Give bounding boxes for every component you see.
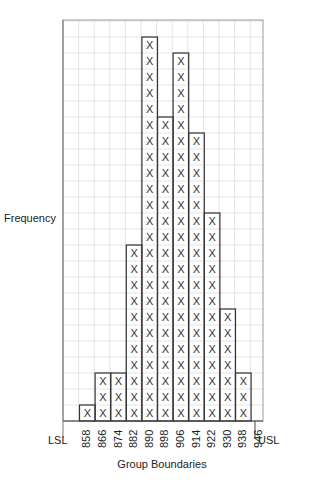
tally-mark: X <box>162 311 170 323</box>
tally-mark: X <box>177 247 185 259</box>
tally-mark: X <box>193 199 201 211</box>
tally-mark: X <box>224 343 232 355</box>
tally-mark: X <box>130 407 138 419</box>
x-tick-label: 890 <box>143 430 155 448</box>
tally-mark: X <box>177 359 185 371</box>
bar: XXX <box>95 373 111 421</box>
tally-mark: X <box>177 327 185 339</box>
tally-mark: X <box>162 247 170 259</box>
tally-mark: X <box>177 231 185 243</box>
tally-mark: X <box>162 151 170 163</box>
tally-mark: X <box>193 135 201 147</box>
tally-mark: X <box>177 279 185 291</box>
tally-mark: X <box>115 391 123 403</box>
tally-mark: X <box>99 391 107 403</box>
tally-mark: X <box>193 279 201 291</box>
tally-mark: X <box>146 231 154 243</box>
tally-mark: X <box>146 311 154 323</box>
tally-mark: X <box>208 295 216 307</box>
tally-mark: X <box>130 343 138 355</box>
tally-mark: X <box>208 359 216 371</box>
tally-mark: X <box>162 215 170 227</box>
tally-mark: X <box>162 119 170 131</box>
tally-mark: X <box>193 375 201 387</box>
tally-mark: X <box>162 231 170 243</box>
tally-mark: X <box>146 295 154 307</box>
tally-mark: X <box>162 391 170 403</box>
tally-mark: X <box>224 311 232 323</box>
x-tick-label: 938 <box>236 430 248 448</box>
usl-label: USL <box>258 434 279 446</box>
tally-mark: X <box>193 215 201 227</box>
tally-mark: X <box>177 343 185 355</box>
tally-mark: X <box>162 407 170 419</box>
tally-mark: X <box>162 327 170 339</box>
tally-mark: X <box>177 183 185 195</box>
x-tick-label: 906 <box>174 430 186 448</box>
tally-mark: X <box>177 215 185 227</box>
tally-mark: X <box>146 391 154 403</box>
tally-mark: X <box>177 391 185 403</box>
bar: XXXXXXXXXXXXXXXXXXX <box>158 117 174 421</box>
tally-mark: X <box>146 135 154 147</box>
bar: X <box>80 405 96 421</box>
tally-mark: X <box>208 247 216 259</box>
bar: XXX <box>236 373 252 421</box>
tally-mark: X <box>146 71 154 83</box>
tally-mark: X <box>146 39 154 51</box>
tally-mark: X <box>146 119 154 131</box>
lsl-label: LSL <box>48 434 68 446</box>
tally-mark: X <box>177 311 185 323</box>
tally-mark: X <box>146 247 154 259</box>
tally-mark: X <box>224 375 232 387</box>
tally-mark: X <box>240 391 248 403</box>
tally-mark: X <box>162 359 170 371</box>
tally-mark: X <box>193 247 201 259</box>
x-tick-label: 898 <box>158 430 170 448</box>
tally-mark: X <box>162 279 170 291</box>
tally-mark: X <box>146 279 154 291</box>
tally-mark: X <box>115 407 123 419</box>
tally-mark: X <box>208 311 216 323</box>
bar: XXXXXXXXXXX <box>126 245 142 421</box>
tally-mark: X <box>162 295 170 307</box>
tally-mark: X <box>208 407 216 419</box>
tally-mark: X <box>224 359 232 371</box>
x-tick-label: 866 <box>96 430 108 448</box>
tally-mark: X <box>146 183 154 195</box>
tally-mark: X <box>177 135 185 147</box>
tally-mark: X <box>193 183 201 195</box>
x-tick-label: 874 <box>112 430 124 448</box>
tally-mark: X <box>224 327 232 339</box>
bar: XXXXXXX <box>220 309 236 421</box>
tally-mark: X <box>208 215 216 227</box>
bar: XXXXXXXXXXXXXXXXXXXXXXX <box>173 53 189 421</box>
tally-mark: X <box>146 55 154 67</box>
tally-mark: X <box>193 391 201 403</box>
x-tick-label: 930 <box>221 430 233 448</box>
tally-mark: X <box>130 327 138 339</box>
tally-mark: X <box>130 391 138 403</box>
tally-mark: X <box>177 103 185 115</box>
x-tick-label: 858 <box>80 430 92 448</box>
tally-mark: X <box>177 55 185 67</box>
tally-mark: X <box>99 407 107 419</box>
tally-mark: X <box>162 183 170 195</box>
tally-mark: X <box>224 407 232 419</box>
tally-mark: X <box>177 407 185 419</box>
tally-mark: X <box>193 359 201 371</box>
tally-mark: X <box>146 199 154 211</box>
tally-mark: X <box>193 151 201 163</box>
tally-mark: X <box>146 343 154 355</box>
tally-mark: X <box>162 263 170 275</box>
x-tick-label: 922 <box>205 430 217 448</box>
tally-mark: X <box>146 375 154 387</box>
tally-mark: X <box>177 167 185 179</box>
tally-mark: X <box>84 407 92 419</box>
tally-mark: X <box>99 375 107 387</box>
tally-mark: X <box>208 343 216 355</box>
tally-mark: X <box>224 391 232 403</box>
tally-mark: X <box>193 407 201 419</box>
tally-mark: X <box>177 87 185 99</box>
tally-mark: X <box>208 391 216 403</box>
